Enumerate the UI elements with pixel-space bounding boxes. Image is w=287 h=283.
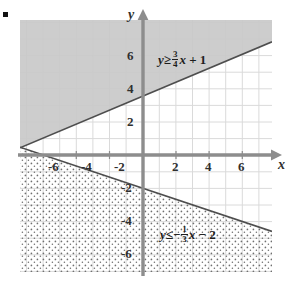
- upper-eq-denominator: 4: [172, 60, 179, 69]
- lower-eq-constant: − 2: [199, 227, 216, 242]
- upper-eq-fraction: 34: [172, 50, 179, 69]
- x-tick-pos2: 2: [172, 160, 179, 173]
- graph-figure: y x -6 -4 -2 2 4 6 6 4 2 -2 -4 -6 y≥34x …: [0, 0, 287, 283]
- inequality-label-lower: y≤−13x − 2: [160, 225, 216, 244]
- y-tick-neg4: -4: [121, 214, 132, 227]
- lower-eq-denominator: 3: [181, 235, 188, 244]
- y-tick-pos4: 4: [127, 82, 134, 95]
- lower-eq-fraction: 13: [181, 225, 188, 244]
- y-tick-neg2: -2: [121, 181, 132, 194]
- upper-eq-constant: + 1: [189, 52, 206, 67]
- inequality-label-upper: y≥34x + 1: [158, 50, 206, 69]
- x-tick-neg4: -4: [81, 160, 92, 173]
- lower-eq-sign: −: [173, 227, 180, 242]
- y-axis-label: y: [128, 8, 134, 22]
- coordinate-plane: [0, 0, 287, 283]
- x-tick-pos4: 4: [205, 160, 212, 173]
- x-tick-neg6: -6: [48, 160, 59, 173]
- y-tick-pos6: 6: [127, 49, 134, 62]
- y-tick-neg6: -6: [121, 247, 132, 260]
- shaded-region-upper: [20, 20, 272, 148]
- upper-eq-relation: ≥: [164, 52, 171, 67]
- lower-eq-relation: ≤: [166, 227, 173, 242]
- x-tick-neg2: -2: [114, 160, 125, 173]
- upper-eq-xterm: x: [179, 52, 186, 67]
- bullet-marker: [3, 12, 8, 17]
- y-tick-pos2: 2: [127, 115, 134, 128]
- lower-eq-xterm: x: [189, 227, 196, 242]
- x-tick-pos6: 6: [238, 160, 245, 173]
- x-axis-label: x: [278, 158, 285, 172]
